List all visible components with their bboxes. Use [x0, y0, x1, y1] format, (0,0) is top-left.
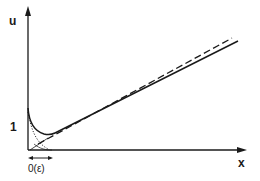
x-axis-label: x [238, 157, 245, 169]
x-axis-arrow-icon [237, 147, 247, 153]
diagram-canvas [0, 0, 260, 181]
exact-solution-curve [28, 41, 238, 135]
boundary-layer-diagram: u 1 x 0(ε) [0, 0, 260, 181]
boundary-layer-width-label: 0(ε) [28, 164, 45, 174]
boundary-layer-width-arrow [28, 156, 53, 160]
x-axis [28, 147, 247, 153]
outer-solution-dashed-line [38, 38, 232, 144]
y-axis [25, 6, 31, 150]
arrow-right-icon [48, 156, 53, 160]
y-axis-arrow-icon [25, 6, 31, 16]
y-axis-label: u [9, 15, 16, 27]
inner-tail-line [34, 144, 52, 150]
y-tick-label-one: 1 [10, 121, 17, 133]
arrow-left-icon [28, 156, 33, 160]
